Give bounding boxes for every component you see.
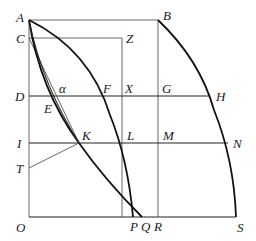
- label-E: E: [43, 101, 52, 116]
- curve-AFLP: [29, 20, 133, 217]
- grid-lines: [29, 20, 236, 217]
- label-A: A: [15, 10, 24, 25]
- label-N: N: [232, 136, 243, 151]
- label-O: O: [16, 220, 26, 235]
- label-K: K: [81, 128, 92, 143]
- label-P: P: [129, 219, 138, 234]
- label-T: T: [16, 161, 24, 176]
- curve-AKQ: [29, 20, 142, 217]
- label-B: B: [163, 8, 171, 23]
- label-C: C: [16, 31, 25, 46]
- label-H: H: [215, 89, 226, 104]
- label-D: D: [14, 89, 25, 104]
- label-G: G: [162, 81, 172, 96]
- geometry-diagram: A B C Z D E α F X G H I K L M N T O P Q …: [0, 0, 256, 241]
- label-F: F: [102, 81, 112, 96]
- curve-BHNS: [158, 20, 236, 217]
- label-I: I: [16, 136, 22, 151]
- label-X: X: [124, 81, 134, 96]
- curves: [29, 20, 236, 217]
- line-TK: [29, 143, 79, 168]
- label-R: R: [153, 219, 162, 234]
- point-labels: A B C Z D E α F X G H I K L M N T O P Q …: [14, 8, 244, 235]
- curve-A-alpha: [29, 20, 81, 146]
- label-S: S: [237, 220, 244, 235]
- label-Z: Z: [126, 31, 134, 46]
- label-alpha: α: [59, 81, 67, 96]
- label-Q: Q: [141, 219, 151, 234]
- label-L: L: [126, 128, 134, 143]
- label-M: M: [162, 128, 175, 143]
